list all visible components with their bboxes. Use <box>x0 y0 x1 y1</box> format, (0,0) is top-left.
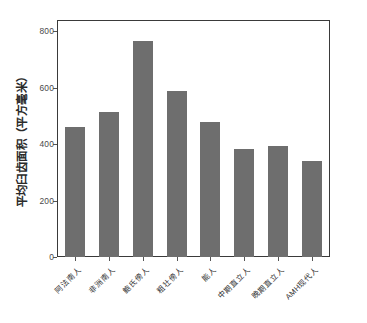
x-axis-tick-mark <box>312 257 313 261</box>
bar <box>65 127 85 257</box>
x-axis-tick-mark <box>75 257 76 261</box>
bar <box>99 112 119 257</box>
y-axis-title-text: 平均臼齿面积（平方毫米） <box>13 70 29 207</box>
x-axis-tick-labels: 阿法南人非洲南人鲍氏傍人粗壮傍人能人中期直立人晚期直立人AMH现代人 <box>0 262 367 323</box>
y-axis-tick-label: 400 <box>30 139 54 149</box>
x-axis-tick-mark <box>109 257 110 261</box>
bars-group <box>58 20 329 257</box>
y-axis-tick-label: 800 <box>30 26 54 36</box>
bar <box>302 161 322 257</box>
x-axis-tick-mark <box>278 257 279 261</box>
bar <box>234 149 254 257</box>
x-axis-tick-mark <box>143 257 144 261</box>
bar <box>268 146 288 257</box>
y-axis-tick-label: 600 <box>30 83 54 93</box>
x-axis-tick-mark <box>177 257 178 261</box>
x-axis-tick-mark <box>210 257 211 261</box>
bar <box>200 122 220 257</box>
x-axis-tick-mark <box>244 257 245 261</box>
bar <box>133 41 153 257</box>
bar <box>167 91 187 257</box>
bar-chart: 平均臼齿面积（平方毫米） 0200400600800 阿法南人非洲南人鲍氏傍人粗… <box>0 0 367 323</box>
y-axis-tick-label: 200 <box>30 196 54 206</box>
